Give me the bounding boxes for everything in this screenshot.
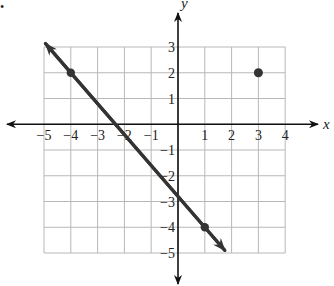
x-axis-label: x [322, 116, 330, 132]
line-point [201, 223, 209, 231]
x-tick-label: −5 [37, 128, 52, 143]
y-tick-label: 1 [168, 92, 175, 107]
y-tick-label: 2 [168, 66, 175, 81]
x-tick-label: 3 [255, 128, 262, 143]
y-tick-label: −5 [160, 246, 175, 261]
x-tick-label: −4 [63, 128, 78, 143]
x-tick-label: 4 [282, 128, 289, 143]
coordinate-plane: −5−4−3−2−11234321−1−2−3−4−5 x y [0, 0, 334, 286]
y-tick-label: −3 [160, 195, 175, 210]
line-point [67, 69, 75, 77]
y-tick-label: −1 [160, 143, 175, 158]
y-tick-label: 3 [168, 40, 175, 55]
plotted-point [254, 68, 263, 77]
x-tick-label: 2 [228, 128, 235, 143]
x-tick-label: 1 [201, 128, 208, 143]
y-tick-label: −4 [160, 220, 175, 235]
x-tick-label: −1 [144, 128, 159, 143]
data-series [45, 43, 263, 250]
y-axis-label: y [179, 0, 188, 11]
x-tick-label: −3 [90, 128, 105, 143]
